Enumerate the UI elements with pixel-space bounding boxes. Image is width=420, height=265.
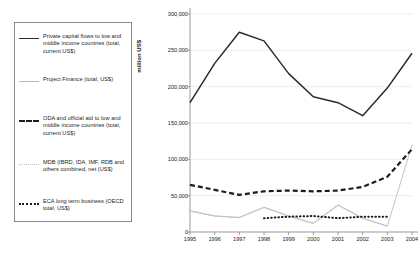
x-axis-tick-label: 1996	[208, 236, 220, 242]
chart-line-series	[190, 149, 412, 195]
x-axis-tick-label: 2002	[356, 236, 368, 242]
gridlines	[190, 14, 412, 196]
x-axis-tick-label: 1998	[258, 236, 270, 242]
chart-svg	[0, 0, 420, 265]
axis-lines	[190, 8, 418, 232]
chart-line-series	[190, 205, 387, 226]
chart-line-series	[190, 32, 412, 116]
x-axis-tick-label: 2000	[307, 236, 319, 242]
x-axis-tick-label: 1995	[184, 236, 196, 242]
x-axis-tick-label: 2003	[381, 236, 393, 242]
data-series	[190, 32, 412, 226]
chart-plot-area: million US$ 050,000100,000150,000200,000…	[0, 0, 420, 265]
x-axis-tick-label: 2004	[406, 236, 418, 242]
chart-line-series	[264, 216, 387, 218]
x-axis-tick-label: 1997	[233, 236, 245, 242]
x-axis-tick-label: 1999	[282, 236, 294, 242]
tick-marks	[187, 14, 412, 235]
chart-line-series	[190, 145, 412, 226]
x-axis-tick-label: 2001	[332, 236, 344, 242]
